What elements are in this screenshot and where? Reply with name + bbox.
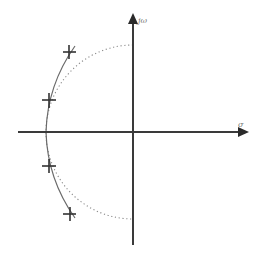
pole-marker-p2 bbox=[42, 93, 56, 108]
pole-marker-p3 bbox=[42, 159, 56, 173]
imaginary-axis-arrow-icon bbox=[128, 13, 138, 24]
imaginary-axis-label: jω bbox=[136, 16, 147, 25]
s-plane-diagram: jω σ bbox=[0, 0, 264, 257]
pole-marker-p4 bbox=[63, 207, 76, 221]
real-axis-label: σ bbox=[238, 120, 244, 129]
